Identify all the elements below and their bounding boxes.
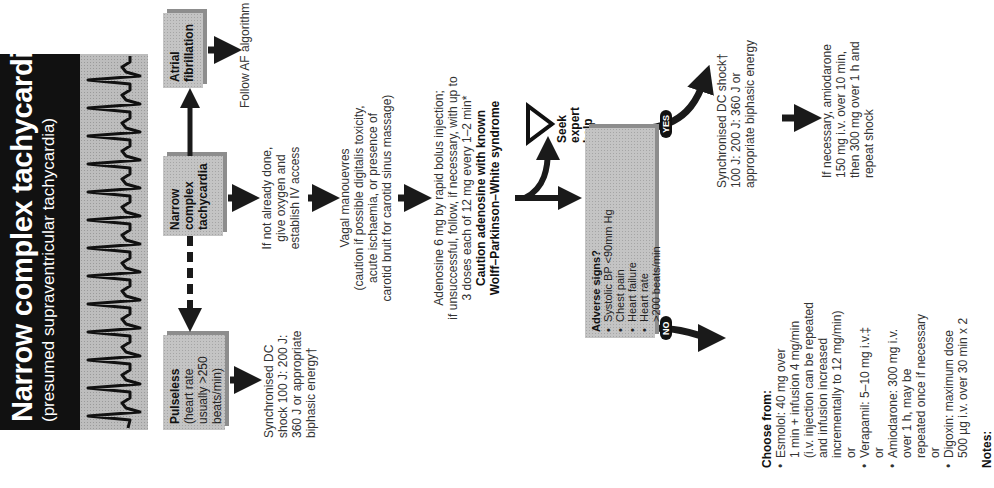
caution-line: Caution adenosine with known xyxy=(474,48,488,348)
adverse-sign-item: >200 beats/min xyxy=(650,134,662,332)
text-line: Amiodarone: 300 mg i.v. xyxy=(886,228,900,458)
text-line: over 1 h, may be xyxy=(900,228,914,458)
text-line: shock 100 J: 200 J: xyxy=(276,308,290,438)
text-line: 3 doses each of 12 mg every 1–2 min* xyxy=(460,48,474,348)
option-verapamil: Verapamil: 5–10 mg i.v.‡ xyxy=(858,228,872,468)
text-line: and infusion increased xyxy=(816,228,830,458)
adverse-sign-item: Chest pain xyxy=(614,134,626,332)
notes-heading: Notes: xyxy=(980,228,994,468)
text-line: Verapamil: 5–10 mg i.v.‡ xyxy=(858,228,872,458)
adenosine-text: Adenosine 6 mg by rapid bolus injection;… xyxy=(432,48,502,348)
adverse-sign-item: Systolic BP <90mm Hg xyxy=(602,134,614,332)
text-line: 360 J or appropriate xyxy=(290,308,304,438)
text-line: if unsuccessful, follow, if necessary, w… xyxy=(446,48,460,348)
text-line: give oxygen and xyxy=(274,138,288,258)
vagal-manoeuvres-text: Vagal manouevres (caution if possible di… xyxy=(338,78,394,318)
text-line: biphasic energy† xyxy=(304,308,318,438)
text-line: incrementally to 12 mg/min) xyxy=(830,228,844,458)
text-line: 100 J: 200 J: 360 J or xyxy=(729,18,743,188)
choose-from-panel: Choose from: Esmolol: 40 mg over 1 min +… xyxy=(760,228,994,468)
adverse-signs-box: Adverse signs? Systolic BP <90mm Hg Ches… xyxy=(585,128,655,338)
text-line: 500 µg i.v. over 30 min x 2 xyxy=(956,228,970,458)
follow-af-text: Follow AF algorithm xyxy=(238,0,252,108)
text-line: 1 min + infusion 4 mg/min xyxy=(788,228,802,458)
text-line: If necessary, amiodarone xyxy=(820,13,834,178)
adverse-sign-item: Heart failure xyxy=(626,134,638,332)
text-line: carotid bruit for carotid sinus massage) xyxy=(380,78,394,318)
choose-from-heading: Choose from: xyxy=(760,228,774,468)
oxygen-iv-text: If not already done, give oxygen and est… xyxy=(260,138,302,258)
option-amiodarone: Amiodarone: 300 mg i.v. over 1 h, may be… xyxy=(886,228,928,468)
text-line: Esmolol: 40 mg over xyxy=(774,228,788,458)
text-line: (i.v. injection can be repeated xyxy=(802,228,816,458)
pulseless-dc-text: Synchronised DC shock 100 J: 200 J: 360 … xyxy=(262,308,318,438)
adverse-sign-item: Heart rate xyxy=(638,134,650,332)
yes-label: YES xyxy=(660,110,672,138)
adverse-signs-heading: Adverse signs? xyxy=(590,134,602,332)
text-line: acute ischaemia, or presence of xyxy=(366,78,380,318)
arrow-yes xyxy=(650,78,705,128)
text-line: repeated once if necessary xyxy=(914,228,928,458)
or-separator: or xyxy=(872,228,886,468)
arrow-to-seek-help xyxy=(525,148,548,198)
text-line: then 300 mg over 1 h and xyxy=(848,13,862,178)
amiodarone-shock-text: If necessary, amiodarone 150 mg i.v. ove… xyxy=(820,13,876,178)
no-label: NO xyxy=(660,317,672,341)
or-separator: or xyxy=(844,228,858,468)
text-line: 150 mg i.v. over 10 min, xyxy=(834,13,848,178)
yes-dc-shock-text: Synchronised DC shock† 100 J: 200 J: 360… xyxy=(715,18,757,188)
text-line: (caution if possible digitalis toxicity, xyxy=(352,78,366,318)
or-separator: or xyxy=(928,228,942,468)
text-line: Synchronised DC shock† xyxy=(715,18,729,188)
option-esmolol: Esmolol: 40 mg over 1 min + infusion 4 m… xyxy=(774,228,844,468)
text-line: appropriate biphasic energy xyxy=(743,18,757,188)
text-line: If not already done, xyxy=(260,138,274,258)
text-line: establish IV access xyxy=(288,138,302,258)
text-line: repeat shock xyxy=(862,13,876,178)
text-line: Adenosine 6 mg by rapid bolus injection; xyxy=(432,48,446,348)
text-line: Digoxin: maximum dose xyxy=(942,228,956,458)
caution-line: Wolff–Parkinson–White syndrome xyxy=(488,48,502,348)
warning-triangle-icon xyxy=(528,106,552,142)
text-line: Vagal manouevres xyxy=(338,78,352,318)
option-digoxin: Digoxin: maximum dose 500 µg i.v. over 3… xyxy=(942,228,970,468)
text-line: Synchronised DC xyxy=(262,308,276,438)
